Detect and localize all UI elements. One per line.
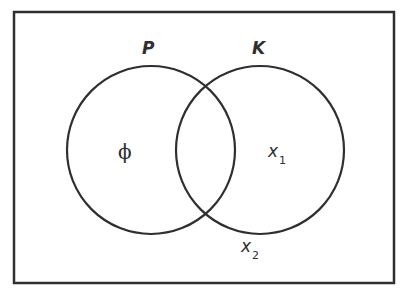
region-label-x2: x2 — [241, 238, 258, 258]
venn-diagram-figure: P K ϕ x1 x2 — [0, 0, 418, 294]
universe-frame — [14, 12, 394, 283]
set-circle-p — [67, 66, 235, 234]
region-label-x1-base: x — [268, 141, 278, 161]
region-label-x2-subscript: 2 — [252, 249, 259, 262]
set-label-k: K — [252, 40, 266, 57]
region-label-x1: x1 — [268, 143, 285, 163]
region-label-x1-subscript: 1 — [279, 154, 286, 167]
venn-diagram-canvas — [0, 0, 418, 294]
region-label-empty-set: ϕ — [118, 142, 132, 162]
set-label-p: P — [142, 40, 155, 57]
set-circle-k — [176, 66, 344, 234]
region-label-x2-base: x — [241, 236, 251, 256]
